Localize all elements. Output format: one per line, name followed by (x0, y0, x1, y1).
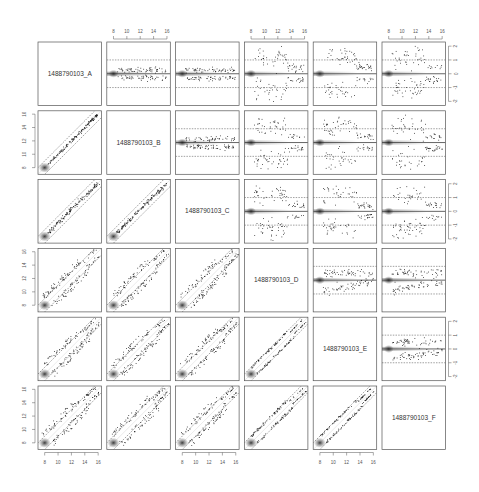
axis-tick-label: 10 (22, 426, 27, 432)
axis-tick-label: 2 (454, 320, 459, 323)
axis-tick-label: 8 (387, 29, 390, 34)
axis-tick-label: 10 (193, 460, 199, 465)
ma-panel (176, 42, 240, 106)
axis-tick-label: 14 (151, 29, 157, 34)
axis-tick-label: 10 (331, 460, 337, 465)
axis-tick-label: 16 (233, 460, 239, 465)
scatter-panel (244, 317, 308, 381)
scatter-panel (107, 248, 171, 312)
axis-tick-label: 14 (357, 460, 363, 465)
variable-label: 1488790103_A (48, 70, 93, 78)
axis-tick-label: 1 (454, 196, 459, 199)
axis-tick-label: 0 (454, 210, 459, 213)
axis-tick-label: 8 (181, 460, 184, 465)
axis-tick-label: 12 (22, 275, 27, 281)
variable-label: 1488790103_E (323, 345, 368, 353)
scatter-panel (176, 386, 240, 450)
axis-tick-label: 8 (22, 303, 27, 306)
axis-tick-label: -1 (454, 85, 459, 89)
axis-tick-label: 10 (400, 29, 406, 34)
axis-tick-label: -2 (454, 236, 459, 240)
axis-tick-label: 14 (289, 29, 295, 34)
scatter-panel (38, 317, 102, 381)
axis-tick-label: 16 (371, 460, 377, 465)
axis-tick-label: 14 (22, 400, 27, 406)
axis-tick-label: 2 (454, 44, 459, 47)
axis-tick-label: 10 (262, 29, 268, 34)
axis-tick-label: 12 (22, 413, 27, 419)
axis-tick-label: 16 (22, 249, 27, 255)
axis-tick-label: 12 (344, 460, 350, 465)
axis-tick-label: 12 (275, 29, 281, 34)
scatter-panel (107, 386, 171, 450)
scatter-panel (38, 248, 102, 312)
axis-tick-label: -2 (454, 374, 459, 378)
scatter-panel (313, 386, 377, 450)
pairs-plot: 1488790103_A1488790103_B1488790103_C1488… (0, 0, 479, 492)
scatter-panel (38, 180, 102, 244)
variable-label: 1488790103_C (185, 207, 230, 215)
axis-tick-label: 14 (22, 125, 27, 131)
axis-tick-label: 8 (22, 441, 27, 444)
axis-tick-label: 14 (426, 29, 432, 34)
axis-tick-label: 1 (454, 333, 459, 336)
axis-tick-label: 16 (96, 460, 102, 465)
scatter-panel (107, 317, 171, 381)
axis-tick-label: 0 (454, 347, 459, 350)
axis-tick-label: 8 (319, 460, 322, 465)
variable-label: 1488790103_F (392, 414, 436, 422)
scatter-panel (38, 386, 102, 450)
axis-tick-label: 10 (56, 460, 62, 465)
axis-tick-label: 16 (22, 111, 27, 117)
axis-tick-label: 10 (22, 151, 27, 157)
ma-panel (313, 180, 377, 244)
axis-tick-label: 2 (454, 182, 459, 185)
scatter-panel (107, 180, 171, 244)
ma-panel (382, 111, 446, 175)
axis-tick-label: 0 (454, 72, 459, 75)
axis-tick-label: -1 (454, 223, 459, 227)
axis-tick-label: 16 (302, 29, 308, 34)
axis-tick-label: 14 (22, 262, 27, 268)
diagonal-panel: 1488790103_C (176, 180, 240, 244)
axis-tick-label: 14 (82, 460, 88, 465)
diagonal-panel: 1488790103_A (38, 42, 102, 106)
diagonal-panel: 1488790103_B (107, 111, 171, 175)
ma-panel (244, 180, 308, 244)
axis-tick-label: 8 (43, 460, 46, 465)
ma-panel (313, 111, 377, 175)
axis-tick-label: 8 (250, 29, 253, 34)
axis-tick-label: 14 (220, 460, 226, 465)
diagonal-panel: 1488790103_D (244, 248, 308, 312)
variable-label: 1488790103_D (254, 276, 299, 284)
axis-tick-label: 10 (124, 29, 130, 34)
axis-tick-label: 16 (22, 386, 27, 392)
ma-panel (176, 111, 240, 175)
ma-panel (313, 248, 377, 312)
axis-tick-label: 12 (413, 29, 419, 34)
axis-tick-label: 8 (112, 29, 115, 34)
ma-panel (382, 317, 446, 381)
axis-tick-label: -1 (454, 360, 459, 364)
axis-tick-label: 12 (138, 29, 144, 34)
ma-panel (382, 248, 446, 312)
scatter-panel (176, 317, 240, 381)
scatter-panel (176, 248, 240, 312)
scatter-panel (244, 386, 308, 450)
axis-tick-label: 12 (22, 138, 27, 144)
axis-tick-label: 16 (440, 29, 446, 34)
ma-panel (382, 180, 446, 244)
diagonal-panel: 1488790103_F (382, 386, 446, 450)
ma-panel (313, 42, 377, 106)
axis-tick-label: 1 (454, 58, 459, 61)
ma-panel (244, 42, 308, 106)
axis-tick-label: 10 (22, 289, 27, 295)
diagonal-panel: 1488790103_E (313, 317, 377, 381)
axis-tick-label: 8 (22, 166, 27, 169)
ma-panel (244, 111, 308, 175)
ma-panel (107, 42, 171, 106)
variable-label: 1488790103_B (116, 139, 160, 147)
axis-tick-label: 12 (69, 460, 75, 465)
ma-panel (382, 42, 446, 106)
scatter-panel (38, 111, 102, 175)
